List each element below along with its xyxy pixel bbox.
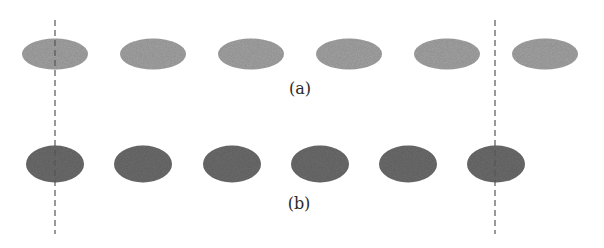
ellipse-b-6 bbox=[467, 146, 525, 183]
ellipse-b-4 bbox=[291, 146, 349, 183]
ellipse-a-4 bbox=[316, 39, 382, 70]
row-b-ellipses bbox=[26, 146, 525, 183]
ellipse-a-3 bbox=[218, 39, 284, 70]
ellipse-b-2 bbox=[114, 146, 172, 183]
ellipse-b-5 bbox=[379, 146, 437, 183]
ellipse-a-6 bbox=[512, 39, 578, 70]
figure: (a) (b) bbox=[0, 0, 604, 248]
ellipse-b-3 bbox=[203, 146, 261, 183]
row-a-label: (a) bbox=[289, 79, 311, 98]
ellipse-a-5 bbox=[414, 39, 480, 70]
ellipse-a-2 bbox=[120, 39, 186, 70]
row-b-label: (b) bbox=[288, 194, 311, 213]
